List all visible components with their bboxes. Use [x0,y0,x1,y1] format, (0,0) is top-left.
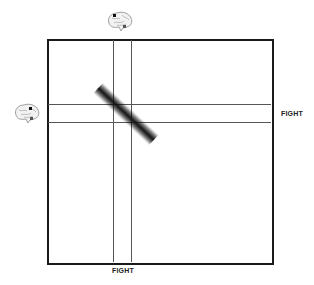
plot-frame [47,39,274,265]
horizontal-guide-line-1 [48,104,271,105]
brain-icon [106,10,134,36]
vertical-guide-line-1 [113,40,114,262]
brain-icon [13,102,41,128]
vertical-guide-line-2 [131,40,132,262]
horizontal-guide-line-2 [48,122,271,123]
x-axis-label: FIGHT [112,267,134,274]
y-axis-label: FIGHT [281,110,303,117]
